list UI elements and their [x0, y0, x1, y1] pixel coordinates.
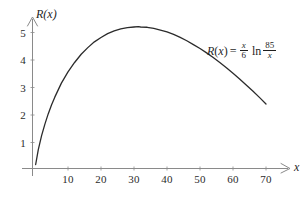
y-axis-label: R(x): [36, 7, 57, 22]
equation-argument-denominator: x: [266, 51, 274, 60]
equation-equals: =: [230, 45, 237, 57]
chart-figure: 1 2 3 4 5 10 20 30 40 50 60 70 R(x) x R(…: [0, 0, 307, 199]
x-tick-label-10: 10: [62, 173, 73, 185]
y-tick-label-3: 3: [14, 82, 26, 94]
y-tick-label-5: 5: [14, 27, 26, 39]
x-tick-label-30: 30: [128, 173, 139, 185]
equation-coefficient-fraction: x 6: [239, 41, 248, 61]
y-axis: [28, 17, 38, 176]
x-axis-label: x: [294, 160, 299, 175]
y-axis-label-close: ): [53, 7, 57, 21]
x-tick-label-40: 40: [161, 173, 172, 185]
equation-coefficient-denominator: 6: [239, 51, 248, 60]
x-tick-label-50: 50: [194, 173, 205, 185]
equation-argument-fraction: 85 x: [263, 41, 276, 61]
x-axis: [22, 164, 290, 174]
x-tick-label-20: 20: [95, 173, 106, 185]
equation-fn: R: [207, 45, 214, 57]
x-tick-label-70: 70: [260, 173, 271, 185]
plot-area: [0, 0, 307, 199]
equation-close-paren: ): [224, 45, 228, 57]
equation-ln: ln: [252, 45, 261, 57]
x-tick-label-60: 60: [227, 173, 238, 185]
y-tick-label-1: 1: [14, 137, 26, 149]
equation-annotation: R(x) = x 6 ln 85 x: [207, 41, 277, 61]
y-tick-label-4: 4: [14, 54, 26, 66]
y-tick-label-2: 2: [14, 109, 26, 121]
